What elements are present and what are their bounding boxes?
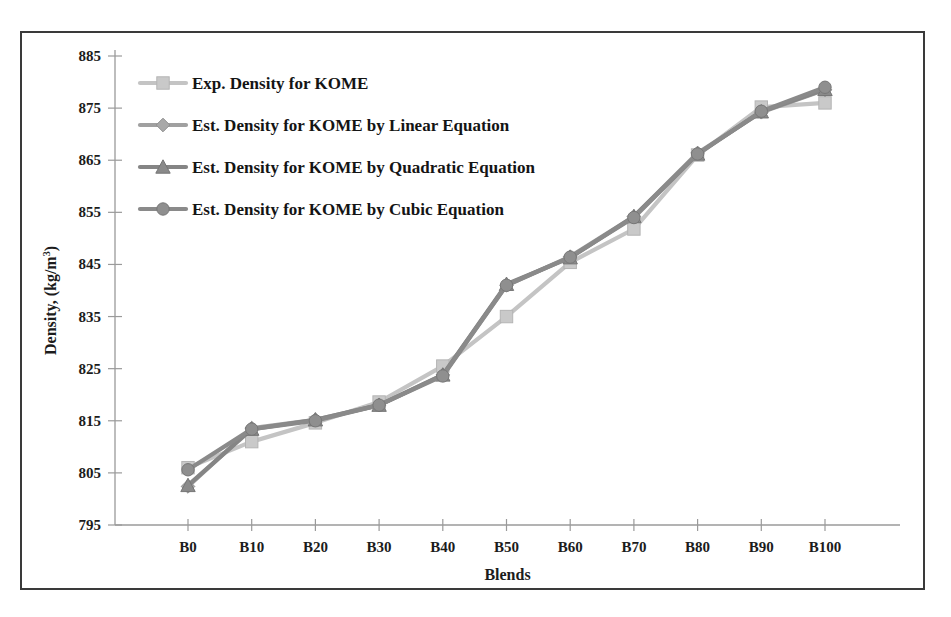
legend-label-2: Est. Density for KOME by Quadratic Equat… (192, 158, 536, 177)
y-axis-tick-label: 885 (79, 48, 102, 64)
x-axis-tick-label: B20 (303, 539, 328, 555)
y-axis-title-text: Density, (kg/m3) (41, 246, 60, 355)
y-axis-tick-label: 875 (79, 100, 102, 116)
series-3-point-0-circle-marker (182, 464, 194, 476)
chart-plot-area: 795805815825835845855865875885B0B10B20B3… (22, 33, 927, 592)
series-3-point-4-circle-marker (437, 370, 449, 382)
y-axis-tick-label: 815 (79, 413, 102, 429)
legend-label-0: Exp. Density for KOME (192, 74, 368, 93)
x-axis-tick-label: B0 (179, 539, 197, 555)
y-axis-title-suffix: ) (42, 246, 60, 251)
figure-frame: 795805815825835845855865875885B0B10B20B3… (20, 31, 925, 590)
legend-swatch-3-circle-marker (157, 203, 169, 215)
series-3-point-9-circle-marker (755, 105, 767, 117)
series-0-point-7-square-marker (628, 223, 640, 235)
series-3-point-7-circle-marker (628, 211, 640, 223)
legend-item-2[interactable]: Est. Density for KOME by Quadratic Equat… (140, 158, 536, 177)
legend-label-3: Est. Density for KOME by Cubic Equation (192, 200, 504, 219)
series-3-point-3-circle-marker (373, 399, 385, 411)
legend-item-0[interactable]: Exp. Density for KOME (140, 74, 368, 93)
y-axis-title-main: Density, (kg/m (42, 256, 60, 355)
chart-svg: 795805815825835845855865875885B0B10B20B3… (22, 33, 927, 592)
series-0-point-1-square-marker (246, 435, 258, 447)
x-axis-tick-label: B10 (239, 539, 264, 555)
y-axis-tick-label: 825 (79, 361, 102, 377)
y-axis-title: Density, (kg/m3) (41, 246, 60, 355)
x-axis-tick-label: B60 (558, 539, 583, 555)
y-axis-tick-label: 835 (79, 309, 102, 325)
y-axis-tick-label: 805 (79, 465, 102, 481)
series-3-point-6-circle-marker (564, 251, 576, 263)
x-axis-tick-label: B50 (494, 539, 519, 555)
x-axis-tick-label: B100 (809, 539, 842, 555)
x-axis-tick-label: B90 (749, 539, 774, 555)
series-0-point-10-square-marker (819, 97, 831, 109)
series-0-point-5-square-marker (500, 310, 512, 322)
series-3-point-10-circle-marker (819, 81, 831, 93)
y-axis-tick-label: 865 (79, 152, 102, 168)
series-3-point-8-circle-marker (691, 148, 703, 160)
chart-legend: Exp. Density for KOMEEst. Density for KO… (140, 74, 536, 219)
legend-swatch-1-diamond-marker (156, 118, 170, 132)
legend-item-3[interactable]: Est. Density for KOME by Cubic Equation (140, 200, 504, 219)
series-3-point-1-circle-marker (246, 423, 258, 435)
x-axis-tick-label: B30 (367, 539, 392, 555)
x-axis-tick-label: B40 (430, 539, 455, 555)
legend-item-1[interactable]: Est. Density for KOME by Linear Equation (140, 116, 510, 135)
y-axis-tick-label: 795 (79, 517, 102, 533)
y-axis-tick-label: 845 (79, 256, 102, 272)
y-axis-tick-label: 855 (79, 204, 102, 220)
series-3-point-5-circle-marker (500, 279, 512, 291)
x-axis-title: Blends (484, 566, 530, 583)
legend-swatch-0-square-marker (157, 77, 169, 89)
x-axis-tick-label: B70 (621, 539, 646, 555)
x-axis-tick-label: B80 (685, 539, 710, 555)
series-3-point-2-circle-marker (309, 415, 321, 427)
legend-label-1: Est. Density for KOME by Linear Equation (192, 116, 510, 135)
